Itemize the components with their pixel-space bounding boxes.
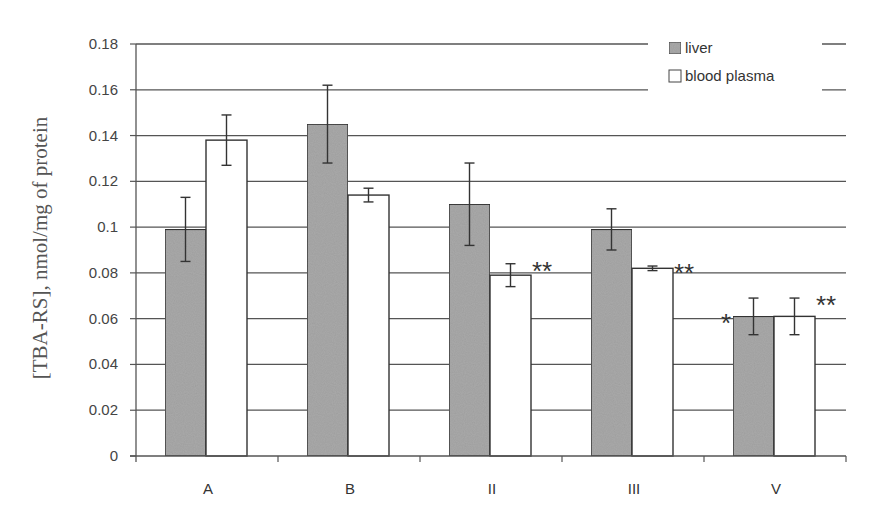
bar-plasma-B: [348, 195, 389, 456]
legend-background: [648, 30, 822, 102]
legend-label: liver: [685, 39, 713, 56]
y-tick-label: 0.08: [89, 264, 118, 281]
y-tick-label: 0.02: [89, 401, 118, 418]
bars: [165, 124, 815, 456]
y-tick-label: 0.06: [89, 310, 118, 327]
legend-swatch-liver: [669, 42, 681, 54]
legend-label: blood plasma: [685, 67, 775, 84]
y-axis-label-group: [TBA-RS], nmol/mg of protein: [28, 116, 52, 379]
legend-swatch-blood-plasma: [669, 70, 681, 82]
bar-plasma-A: [206, 140, 247, 456]
legend: liverblood plasma: [648, 30, 822, 102]
significance-marker: **: [674, 258, 694, 288]
x-tick-label: II: [488, 480, 496, 497]
bar-liver-A: [165, 229, 206, 456]
y-axis-ticks: 00.020.040.060.080.10.120.140.160.18: [89, 35, 136, 464]
x-tick-label: B: [345, 480, 355, 497]
bar-plasma-V: [774, 316, 815, 456]
y-tick-label: 0.04: [89, 355, 118, 372]
bar-chart: [TBA-RS], nmol/mg of protein 00.020.040.…: [0, 0, 873, 519]
y-tick-label: 0: [110, 447, 118, 464]
bar-plasma-III: [632, 268, 673, 456]
bar-liver-B: [307, 124, 348, 456]
x-axis-ticks: ABIIIIIV: [203, 456, 846, 497]
x-tick-label: III: [628, 480, 641, 497]
bar-liver-III: [591, 229, 632, 456]
y-tick-label: 0.18: [89, 35, 118, 52]
significance-marker: **: [532, 256, 552, 286]
x-tick-label: A: [203, 480, 213, 497]
y-axis-label: [TBA-RS], nmol/mg of protein: [28, 116, 52, 379]
significance-marker: *: [721, 308, 731, 338]
y-tick-label: 0.1: [97, 218, 118, 235]
y-tick-label: 0.12: [89, 172, 118, 189]
y-tick-label: 0.16: [89, 81, 118, 98]
significance-marker: **: [816, 290, 836, 320]
y-tick-label: 0.14: [89, 127, 118, 144]
bar-liver-V: [733, 316, 774, 456]
x-tick-label: V: [771, 480, 781, 497]
bar-plasma-II: [490, 275, 531, 456]
